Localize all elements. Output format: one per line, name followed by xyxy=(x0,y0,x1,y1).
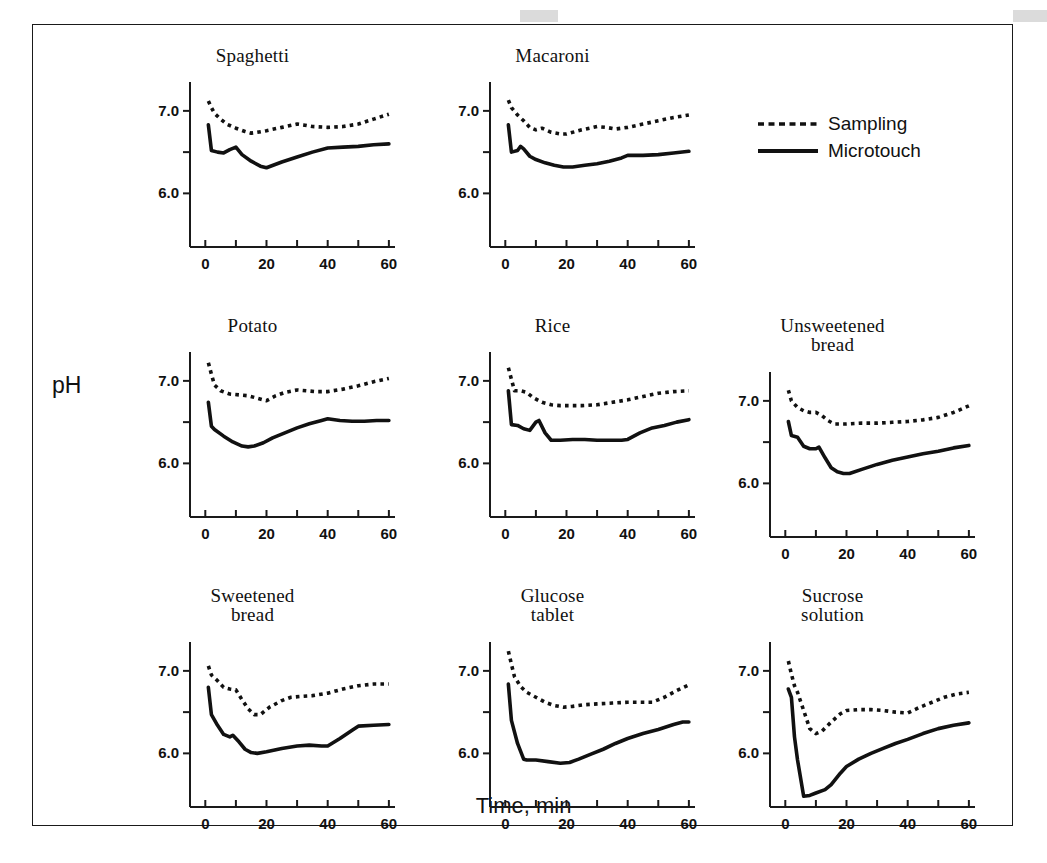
panel-title-line: Rice xyxy=(450,316,655,335)
panel-title: Rice xyxy=(450,316,655,335)
x-tick-label: 0 xyxy=(201,525,209,542)
scan-artifact xyxy=(1013,10,1047,22)
plot-area: 6.07.00204060 xyxy=(450,636,701,841)
x-tick-label: 20 xyxy=(258,255,275,272)
y-tick-label: 6.0 xyxy=(158,454,179,471)
x-tick-label: 20 xyxy=(558,815,575,832)
y-tick-label: 7.0 xyxy=(458,372,479,389)
x-tick-label: 20 xyxy=(558,255,575,272)
series-line-microtouch xyxy=(208,402,389,447)
y-tick-label: 6.0 xyxy=(458,184,479,201)
series-line-microtouch xyxy=(788,689,969,796)
panel-title-line: tablet xyxy=(450,605,655,624)
x-tick-label: 60 xyxy=(681,255,698,272)
legend-label-microtouch: Microtouch xyxy=(828,140,921,162)
x-tick-label: 0 xyxy=(201,255,209,272)
x-tick-label: 40 xyxy=(619,815,636,832)
figure-root: pH Time, min Sampling Microtouch Spaghet… xyxy=(0,0,1047,863)
x-tick-label: 20 xyxy=(558,525,575,542)
panel-title: Glucosetablet xyxy=(450,586,655,625)
x-tick-label: 60 xyxy=(381,815,398,832)
x-tick-label: 60 xyxy=(381,255,398,272)
x-tick-label: 0 xyxy=(201,815,209,832)
panel-title: Sucrosesolution xyxy=(730,586,935,625)
series-line-microtouch xyxy=(788,422,969,474)
plot-area: 6.07.00204060 xyxy=(450,346,701,551)
panel-title-line: Macaroni xyxy=(450,46,655,65)
panel-title-line: bread xyxy=(730,335,935,354)
series-line-sampling xyxy=(208,101,389,133)
x-tick-label: 40 xyxy=(899,545,916,562)
panel-unsweetened-bread: Unsweetenedbread6.07.00204060 xyxy=(688,316,950,548)
panel-title: Spaghetti xyxy=(150,46,355,65)
series-line-sampling xyxy=(508,651,689,707)
plot-area: 6.07.00204060 xyxy=(150,636,401,841)
panel-spaghetti: Spaghetti6.07.00204060 xyxy=(108,46,370,278)
x-tick-label: 0 xyxy=(781,815,789,832)
panel-glucose-tablet: Glucosetablet6.07.00204060 xyxy=(408,586,670,818)
series-line-microtouch xyxy=(208,125,389,168)
panel-title: Potato xyxy=(150,316,355,335)
plot-area: 6.07.00204060 xyxy=(450,76,701,281)
y-tick-label: 7.0 xyxy=(158,662,179,679)
plot-area: 6.07.00204060 xyxy=(150,76,401,281)
series-line-sampling xyxy=(208,363,389,401)
series-line-sampling xyxy=(788,661,969,734)
y-tick-label: 6.0 xyxy=(458,744,479,761)
y-tick-label: 6.0 xyxy=(458,454,479,471)
y-tick-label: 7.0 xyxy=(738,392,759,409)
series-line-sampling xyxy=(788,390,969,424)
legend-swatch-solid-line xyxy=(757,144,819,158)
legend-label-sampling: Sampling xyxy=(828,113,907,135)
panel-sucrose-solution: Sucrosesolution6.07.00204060 xyxy=(688,586,950,818)
series-line-sampling xyxy=(508,368,689,406)
x-tick-label: 20 xyxy=(258,525,275,542)
plot-area: 6.07.00204060 xyxy=(730,636,981,841)
legend-item-microtouch: Microtouch xyxy=(757,137,987,164)
plot-area: 6.07.00204060 xyxy=(730,366,981,571)
x-tick-label: 20 xyxy=(258,815,275,832)
y-tick-label: 7.0 xyxy=(458,662,479,679)
plot-area: 6.07.00204060 xyxy=(150,346,401,551)
x-tick-label: 20 xyxy=(838,545,855,562)
panel-title: Unsweetenedbread xyxy=(730,316,935,355)
x-tick-label: 40 xyxy=(319,255,336,272)
x-tick-label: 60 xyxy=(961,545,978,562)
x-tick-label: 60 xyxy=(961,815,978,832)
x-tick-label: 20 xyxy=(838,815,855,832)
x-tick-label: 40 xyxy=(899,815,916,832)
panel-title-line: Spaghetti xyxy=(150,46,355,65)
legend: Sampling Microtouch xyxy=(757,110,987,164)
x-tick-label: 40 xyxy=(319,525,336,542)
panel-rice: Rice6.07.00204060 xyxy=(408,316,670,548)
series-line-sampling xyxy=(208,666,389,715)
panel-title-line: solution xyxy=(730,605,935,624)
panel-title-line: Potato xyxy=(150,316,355,335)
y-tick-label: 6.0 xyxy=(158,744,179,761)
x-tick-label: 0 xyxy=(501,255,509,272)
y-tick-label: 6.0 xyxy=(738,474,759,491)
scan-artifact xyxy=(520,10,558,22)
panel-title-line: Glucose xyxy=(450,586,655,605)
panel-title: Macaroni xyxy=(450,46,655,65)
panel-sweetened-bread: Sweetenedbread6.07.00204060 xyxy=(108,586,370,818)
y-tick-label: 7.0 xyxy=(458,102,479,119)
y-tick-label: 7.0 xyxy=(158,372,179,389)
panel-title-line: Sweetened xyxy=(150,586,355,605)
legend-swatch-dotted-line xyxy=(757,117,819,131)
panel-title-line: Unsweetened xyxy=(730,316,935,335)
y-tick-label: 6.0 xyxy=(738,744,759,761)
x-tick-label: 0 xyxy=(501,525,509,542)
panel-potato: Potato6.07.00204060 xyxy=(108,316,370,548)
panel-title: Sweetenedbread xyxy=(150,586,355,625)
y-tick-label: 7.0 xyxy=(158,102,179,119)
x-tick-label: 0 xyxy=(501,815,509,832)
legend-item-sampling: Sampling xyxy=(757,110,987,137)
x-tick-label: 40 xyxy=(319,815,336,832)
y-tick-label: 7.0 xyxy=(738,662,759,679)
y-tick-label: 6.0 xyxy=(158,184,179,201)
series-line-sampling xyxy=(508,100,689,134)
x-tick-label: 60 xyxy=(381,525,398,542)
x-tick-label: 40 xyxy=(619,525,636,542)
panel-macaroni: Macaroni6.07.00204060 xyxy=(408,46,670,278)
